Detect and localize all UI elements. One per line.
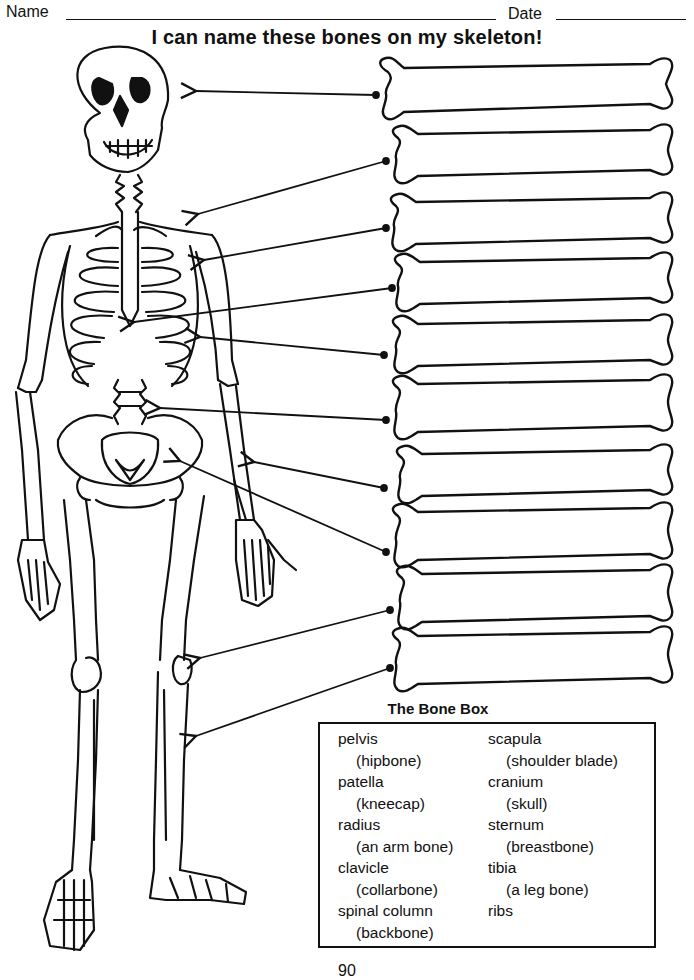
answer-bone-10[interactable]: [393, 626, 672, 691]
bone-box-left-column: pelvis (hipbone) patella (kneecap) radiu…: [338, 728, 453, 943]
bone-description: (a leg bone): [488, 879, 618, 901]
bone-term: sternum: [488, 814, 618, 836]
bone-entry-cranium: cranium (skull): [488, 771, 618, 814]
answer-bone-4[interactable]: [395, 252, 672, 311]
bone-entry-clavicle: clavicle (collarbone): [338, 857, 453, 900]
arrow-patella: [200, 610, 390, 658]
bone-entry-scapula: scapula (shoulder blade): [488, 728, 618, 771]
answer-bone-7[interactable]: [397, 444, 672, 503]
bone-entry-radius: radius (an arm bone): [338, 814, 453, 857]
answer-bone-6[interactable]: [393, 374, 672, 439]
bone-term: ribs: [488, 900, 618, 922]
answer-bone-5[interactable]: [393, 314, 672, 373]
answer-bone-8[interactable]: [393, 502, 672, 567]
bone-description: (shoulder blade): [488, 750, 618, 772]
bone-description: (backbone): [338, 922, 453, 944]
arrow-ribs: [200, 337, 384, 355]
bone-description: (hipbone): [338, 750, 453, 772]
bone-entry-spinal-column: spinal column (backbone): [338, 900, 453, 943]
bone-description: (an arm bone): [338, 836, 453, 858]
answer-bone-2[interactable]: [393, 124, 672, 183]
bone-term: tibia: [488, 857, 618, 879]
bone-term: spinal column: [338, 900, 453, 922]
arrow-pelvis: [180, 461, 386, 552]
bone-term: cranium: [488, 771, 618, 793]
bone-entry-pelvis: pelvis (hipbone): [338, 728, 453, 771]
bone-box-title: The Bone Box: [318, 700, 558, 717]
bone-term: clavicle: [338, 857, 453, 879]
bone-description: (breastbone): [488, 836, 618, 858]
bone-description: (collarbone): [338, 879, 453, 901]
bone-description: (skull): [488, 793, 618, 815]
skeleton-figure: [16, 47, 296, 950]
bone-term: patella: [338, 771, 453, 793]
answer-bones: [380, 58, 672, 692]
answer-bone-3[interactable]: [391, 192, 672, 251]
bone-description: (kneecap): [338, 793, 453, 815]
arrow-cranium: [196, 91, 376, 95]
bone-entry-ribs: ribs: [488, 900, 618, 922]
bone-box: pelvis (hipbone) patella (kneecap) radiu…: [318, 722, 656, 948]
pointer-arrows: [134, 91, 392, 736]
arrow-scapula: [204, 228, 386, 260]
bone-entry-tibia: tibia (a leg bone): [488, 857, 618, 900]
bone-entry-sternum: sternum (breastbone): [488, 814, 618, 857]
answer-bone-1[interactable]: [380, 58, 672, 120]
page-number: 90: [338, 962, 356, 980]
arrow-clavicle: [198, 161, 386, 214]
bone-term: radius: [338, 814, 453, 836]
bone-term: pelvis: [338, 728, 453, 750]
bone-term: scapula: [488, 728, 618, 750]
bone-entry-patella: patella (kneecap): [338, 771, 453, 814]
bone-box-right-column: scapula (shoulder blade) cranium (skull)…: [488, 728, 618, 922]
answer-bone-9[interactable]: [397, 564, 672, 629]
arrow-spinal-column: [160, 408, 386, 420]
arrow-radius: [254, 462, 384, 488]
